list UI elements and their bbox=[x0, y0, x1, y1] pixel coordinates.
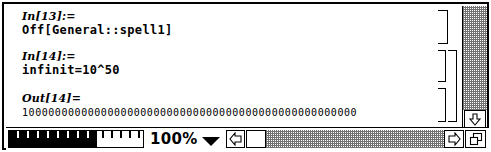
slider-tick bbox=[138, 131, 140, 138]
arrow-left-icon-glyph bbox=[229, 132, 242, 146]
bottom-bar: 100% bbox=[6, 127, 489, 150]
vertical-scrollbar-track[interactable] bbox=[463, 6, 487, 110]
slider-tick bbox=[87, 131, 89, 138]
cell-bracket-in-13[interactable] bbox=[438, 10, 448, 44]
slider-tick bbox=[111, 131, 113, 138]
chevron-down-icon[interactable] bbox=[202, 137, 220, 146]
slider-tick bbox=[120, 131, 122, 138]
slider-tick bbox=[67, 131, 69, 138]
arrow-left-icon[interactable] bbox=[226, 130, 245, 148]
slider-tick bbox=[77, 131, 79, 138]
notebook-cell-in-13[interactable]: In[13]:= Off[General::spell1] bbox=[8, 10, 460, 38]
arrow-right-icon[interactable] bbox=[444, 130, 464, 148]
notebook-cell-out-14[interactable]: Out[14]= 1000000000000000000000000000000… bbox=[8, 92, 460, 120]
cell-bracket-group-14[interactable] bbox=[448, 50, 457, 122]
vertical-scrollbar[interactable] bbox=[462, 6, 487, 127]
notebook-cell-area[interactable]: In[13]:= Off[General::spell1] In[14]:= i… bbox=[8, 8, 460, 127]
cell-content-in-13[interactable]: Off[General::spell1] bbox=[22, 23, 460, 38]
slider-tick bbox=[57, 131, 59, 138]
slider-tick bbox=[47, 131, 49, 138]
cell-content-in-14[interactable]: infinit=10^50 bbox=[22, 63, 460, 78]
arrow-down-icon-glyph bbox=[468, 113, 482, 126]
magnification-slider[interactable] bbox=[8, 130, 144, 148]
cell-content-out-14: 1000000000000000000000000000000000000000… bbox=[22, 105, 460, 120]
notebook-cell-in-14[interactable]: In[14]:= infinit=10^50 bbox=[8, 50, 460, 78]
zoom-level-value[interactable]: 100% bbox=[150, 131, 198, 148]
slider-tick bbox=[37, 131, 39, 138]
horizontal-scrollbar-track[interactable] bbox=[266, 130, 444, 148]
resize-grow-icon-glyph bbox=[469, 132, 483, 146]
cell-label-in-14: In[14]:= bbox=[22, 50, 460, 63]
cell-label-in-13: In[13]:= bbox=[22, 10, 460, 23]
cell-label-out-14: Out[14]= bbox=[22, 92, 460, 105]
slider-tick bbox=[102, 131, 104, 138]
cell-bracket-out-14[interactable] bbox=[438, 88, 446, 122]
magnification-slider-empty[interactable] bbox=[97, 131, 143, 147]
slider-tick bbox=[17, 131, 19, 138]
magnification-slider-filled[interactable] bbox=[9, 131, 97, 147]
resize-grow-icon[interactable] bbox=[465, 130, 486, 148]
slider-tick bbox=[129, 131, 131, 138]
window-frame: In[13]:= Off[General::spell1] In[14]:= i… bbox=[2, 2, 489, 150]
notebook-window: In[13]:= Off[General::spell1] In[14]:= i… bbox=[0, 0, 491, 152]
slider-tick bbox=[27, 131, 29, 138]
horizontal-scrollbar-thumb[interactable] bbox=[246, 130, 266, 148]
cell-bracket-in-14[interactable] bbox=[438, 50, 446, 82]
arrow-down-icon[interactable] bbox=[464, 110, 486, 128]
arrow-right-icon-glyph bbox=[448, 132, 461, 146]
